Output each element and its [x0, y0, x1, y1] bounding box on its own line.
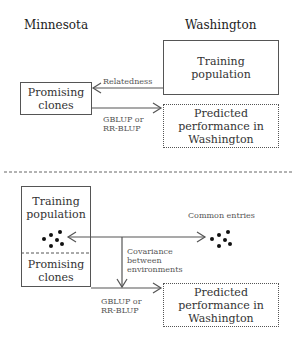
predicted-performance-box-bottom: Predicted performance in Washington [163, 283, 279, 327]
predicted-label-line2: performance in [164, 121, 278, 133]
promising-label-line1: Promising [21, 87, 91, 99]
training-label-line2: population [164, 69, 278, 81]
predicted-performance-box-top: Predicted performance in Washington [163, 104, 279, 148]
method-label-top-line2: RR-BLUP [103, 124, 141, 133]
promising-clones-box-top: Promising clones [20, 82, 92, 115]
covariance-label-line1: Covariance [127, 247, 173, 256]
training-label-line1: Training [164, 56, 278, 68]
minnesota-heading: Minnesota [24, 18, 88, 32]
method-label-bottom-line1: GBLUP or [101, 297, 141, 306]
predicted-bottom-line3: Washington [164, 313, 278, 325]
predicted-label-line1: Predicted [164, 108, 278, 120]
training-population-box-top: Training population [163, 40, 279, 95]
method-label-bottom-line2: RR-BLUP [101, 306, 139, 315]
relatedness-label: Relatedness [103, 77, 152, 86]
promising-label-bottom-line1: Promising [22, 259, 90, 271]
common-entries-dots-icon [210, 230, 232, 248]
covariance-label-line3: environments [127, 265, 183, 274]
training-label-bottom-line1: Training [22, 196, 90, 208]
promising-label-bottom-line2: clones [22, 272, 90, 284]
predicted-label-line3: Washington [164, 134, 278, 146]
combined-training-promising-box: Training population Promising clones [21, 186, 91, 287]
promising-label-line2: clones [21, 100, 91, 112]
method-label-top-line1: GBLUP or [103, 115, 143, 124]
washington-heading: Washington [185, 18, 256, 32]
predicted-bottom-line1: Predicted [164, 287, 278, 299]
covariance-label-line2: between [127, 256, 162, 265]
common-entries-label: Common entries [188, 211, 255, 220]
training-label-bottom-line2: population [22, 209, 90, 221]
predicted-bottom-line2: performance in [164, 300, 278, 312]
